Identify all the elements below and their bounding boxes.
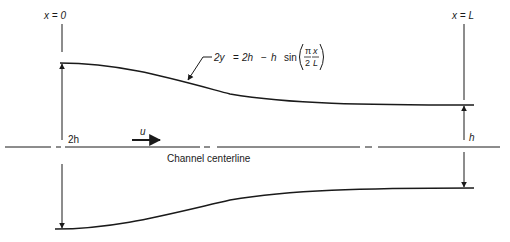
- equation-leader: [188, 57, 212, 80]
- centerline-label: Channel centerline: [167, 153, 251, 164]
- svg-text:=: =: [233, 52, 239, 63]
- svg-text:L: L: [313, 58, 318, 68]
- xL-station: x = L: [451, 10, 474, 100]
- x0-station: x = 0: [43, 10, 66, 52]
- channel-diagram: x = 0 x = L 2h h u Channel centerline: [0, 0, 510, 242]
- svg-text:x: x: [312, 46, 318, 56]
- svg-text:2: 2: [305, 58, 310, 68]
- svg-text:π: π: [305, 46, 311, 56]
- outlet-height-label: h: [469, 132, 475, 143]
- upper-wall: [60, 63, 474, 105]
- svg-text:h: h: [271, 52, 277, 63]
- inlet-height-label: 2h: [68, 134, 79, 145]
- svg-text:−: −: [261, 52, 267, 63]
- velocity-arrow: u: [132, 126, 160, 140]
- svg-text:sin: sin: [284, 52, 297, 63]
- xL-label: x = L: [451, 10, 474, 21]
- svg-text:2y: 2y: [213, 52, 226, 63]
- velocity-label: u: [140, 126, 146, 137]
- lower-wall: [55, 188, 474, 229]
- svg-text:2h: 2h: [241, 52, 254, 63]
- inlet-dimension: 2h: [62, 64, 79, 228]
- x0-label: x = 0: [43, 10, 66, 21]
- wall-equation: 2y = 2h − h sin π 2 x L: [213, 44, 324, 70]
